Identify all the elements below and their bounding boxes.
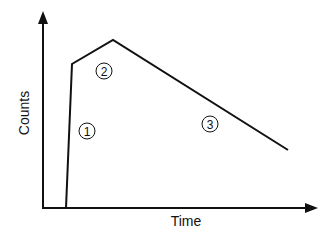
region-1-label: 1 xyxy=(84,125,91,139)
x-axis-arrow-icon xyxy=(305,203,318,213)
counts-curve xyxy=(66,40,288,208)
region-1-marker: 1 xyxy=(79,123,95,139)
region-3-marker: 3 xyxy=(202,116,218,132)
region-2-label: 2 xyxy=(101,65,108,79)
y-axis-arrow-icon xyxy=(38,11,48,24)
region-2-marker: 2 xyxy=(96,63,112,79)
region-3-label: 3 xyxy=(207,118,214,132)
x-axis-title: Time xyxy=(171,213,202,229)
counts-time-diagram: 1 2 3 Counts Time xyxy=(0,0,332,237)
y-axis-title: Counts xyxy=(16,91,32,135)
